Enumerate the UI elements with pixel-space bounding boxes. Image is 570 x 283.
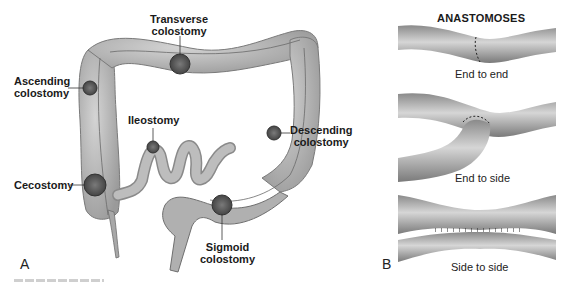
side-to-side-illustration: [398, 195, 556, 262]
descending-stoma: [267, 126, 281, 140]
illustration-canvas: [0, 0, 570, 283]
label-line: Ascending: [14, 75, 70, 87]
transverse-stoma: [170, 54, 190, 74]
label-line: Transverse: [150, 13, 208, 25]
sigmoid-stoma: [212, 195, 232, 215]
caption-end-to-end: End to end: [455, 68, 508, 80]
caption-end-to-side: End to side: [455, 172, 510, 184]
caption-side-to-side: Side to side: [451, 261, 508, 273]
label-descending-colostomy: Descending colostomy: [290, 124, 352, 148]
label-ileostomy: Ileostomy: [128, 114, 179, 126]
label-ascending-colostomy: Ascending colostomy: [14, 75, 70, 99]
label-line: colostomy: [14, 87, 70, 99]
anastomoses-title: ANASTOMOSES: [437, 12, 525, 24]
colon-illustration: [68, 31, 320, 272]
label-line: Sigmoid: [200, 241, 255, 253]
cecostomy-stoma: [84, 174, 106, 196]
ileostomy-stoma: [147, 141, 159, 153]
panel-letter-a: A: [20, 256, 29, 272]
label-cecostomy: Cecostomy: [14, 179, 73, 191]
label-line: Descending: [290, 124, 352, 136]
panel-letter-b: B: [382, 256, 391, 272]
label-sigmoid-colostomy: Sigmoid colostomy: [200, 241, 255, 265]
end-to-side-illustration: [398, 93, 556, 182]
label-line: colostomy: [290, 136, 352, 148]
label-transverse-colostomy: Transverse colostomy: [150, 13, 208, 37]
figure-caption-cutoff: [14, 279, 104, 282]
label-line: colostomy: [150, 25, 208, 37]
label-line: colostomy: [200, 253, 255, 265]
ascending-stoma: [83, 81, 97, 95]
end-to-end-illustration: [398, 25, 556, 63]
